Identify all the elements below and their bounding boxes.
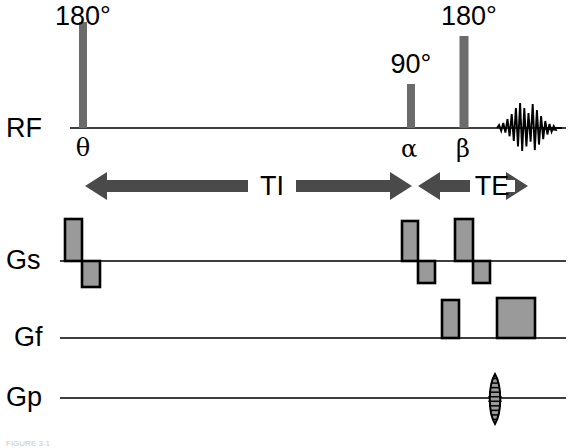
figure-caption: FIGURE 3-1 (6, 439, 51, 448)
pulse-sequence-diagram: RF Gs Gf Gp 180° 90° 180° θ α β TI TE (0, 0, 568, 448)
time-symbol-alpha: α (401, 135, 417, 163)
sequence-canvas: RF Gs Gf Gp 180° 90° 180° θ α β TI TE (0, 0, 568, 448)
phase-encode-envelope (490, 374, 501, 424)
channel-label-rf: RF (6, 113, 42, 143)
slice-select-lobe-inversion (65, 219, 82, 261)
excitation-pulse (407, 84, 415, 128)
gradient-lobes-group (65, 219, 535, 338)
interval-arrow-ti-right (296, 172, 412, 200)
inversion-pulse (79, 22, 87, 128)
channel-label-gs: Gs (6, 245, 41, 275)
time-symbol-theta: θ (76, 134, 90, 162)
interval-label-ti: TI (260, 171, 284, 201)
phase-encode-ladder (488, 374, 501, 424)
slice-rephase-lobe-excitation (418, 261, 435, 283)
flip-angle-label-90: 90° (391, 49, 432, 79)
readout-gradient-lobe (497, 298, 535, 338)
flip-angle-labels: 180° 90° 180° (55, 1, 497, 79)
channel-label-gf: Gf (14, 322, 43, 352)
slice-rephase-lobe-refocus (473, 261, 490, 283)
slice-select-lobe-refocus (455, 219, 473, 261)
time-symbol-beta: β (456, 135, 470, 163)
slice-select-lobe-excitation (402, 221, 418, 261)
channel-labels: RF Gs Gf Gp (6, 113, 43, 412)
interval-arrow-ti-left (85, 172, 248, 200)
interval-arrows-group (85, 172, 528, 200)
flip-angle-label-180-refocus: 180° (441, 1, 497, 31)
flip-angle-label-180-inversion: 180° (55, 1, 111, 31)
refocusing-pulse (460, 36, 469, 128)
slice-rephase-lobe-inversion (82, 261, 100, 287)
interval-label-te: TE (475, 171, 510, 201)
time-symbols: θ α β (76, 134, 470, 163)
readout-dephase-lobe (442, 300, 459, 338)
interval-arrow-te-left (418, 172, 470, 200)
channel-label-gp: Gp (6, 382, 42, 412)
interval-arrow-te-right (506, 172, 528, 200)
